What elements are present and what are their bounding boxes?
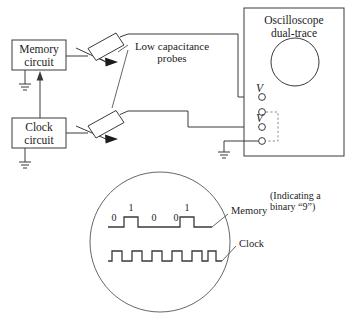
probe-label-line1: Low capacitance: [135, 40, 209, 52]
clock-probe-cable: [120, 111, 260, 127]
scope-ground-icon: [218, 152, 230, 158]
memory-circuit-label-line2: circuit: [24, 56, 53, 68]
magnified-display-circle: [90, 172, 230, 312]
memory-ground-icon: [19, 84, 31, 90]
memory-trace-leader: [212, 214, 228, 227]
scope-terminal-4[interactable]: [259, 138, 266, 145]
memory-circuit-label: Memorycircuit: [12, 43, 66, 69]
clock-ground-icon: [19, 162, 31, 168]
oscilloscope-title: Oscilloscopedual-trace: [248, 14, 340, 40]
clock-circuit-label-line1: Clock: [25, 121, 52, 133]
clock-trace-label: Clock: [239, 238, 264, 250]
memory-waveform-trace: [108, 217, 212, 227]
probe-label: Low capacitanceprobes: [126, 40, 218, 65]
clock-trace-leader: [222, 246, 236, 261]
memory-bit-0: 0: [108, 212, 120, 223]
clock-circuit-label: Clockcircuit: [12, 121, 66, 147]
memory-circuit-label-line1: Memory: [19, 43, 59, 55]
clock-to-memory-arrowhead: [37, 71, 44, 81]
memory-probe-arrowhead: [105, 58, 118, 67]
memory-bit-4: 1: [181, 202, 193, 213]
memory-trace-label: Memory: [231, 205, 267, 217]
memory-bit-1: 1: [125, 202, 137, 213]
clock-circuit-label-line2: circuit: [24, 134, 53, 146]
binary-indication-note-line2: binary “9”): [270, 201, 315, 212]
oscilloscope-title-line2: dual-trace: [271, 27, 317, 39]
memory-probe-body: [88, 33, 124, 61]
oscilloscope-title-line1: Oscilloscope: [264, 14, 323, 26]
probe-label-line2: probes: [157, 52, 186, 64]
memory-bit-3: 0: [170, 212, 182, 223]
clock-probe-body: [88, 111, 124, 139]
memory-bit-2: 0: [148, 212, 160, 223]
scope-channel2-v-label: V: [256, 112, 263, 125]
clock-probe-arrowhead: [105, 135, 118, 144]
clock-waveform-trace: [108, 251, 222, 261]
memory-probe-cable: [120, 34, 238, 37]
binary-indication-note: (Indicating abinary “9”): [270, 190, 350, 212]
scope-channel1-v-label: V: [256, 82, 263, 95]
oscilloscope-measurement-diagram: Memorycircuit Clockcircuit Low capacitan…: [0, 0, 352, 315]
binary-indication-note-line1: (Indicating a: [270, 190, 321, 201]
